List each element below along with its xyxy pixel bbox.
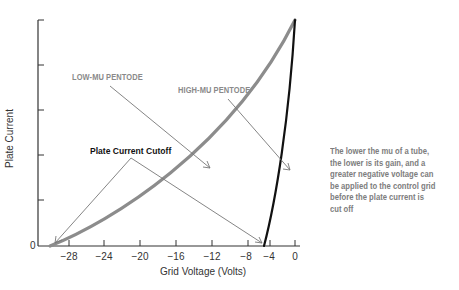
x-tick-label: −28 (61, 251, 78, 262)
low-mu-label: LOW-MU PENTODE (72, 72, 143, 82)
explanation-caption: The lower the mu of a tube, the lower is… (330, 146, 459, 215)
caption-line: greater negative voltage can (330, 169, 452, 181)
caption-line: the lower is its gain, and a (330, 158, 452, 170)
caption-line: before the plate current is (330, 192, 452, 204)
cutoff-label: Plate Current Cutoff (90, 145, 171, 156)
caption-line: The lower the mu of a tube, (330, 146, 452, 158)
x-tick-label: 0 (292, 251, 298, 262)
caption-line: be applied to the control grid (330, 181, 452, 193)
x-tick-label: −4 (263, 251, 274, 262)
chart-canvas (0, 0, 459, 290)
x-tick-label: −16 (168, 251, 185, 262)
x-tick-label: −20 (132, 251, 149, 262)
y-axis-label: Plate Current (4, 109, 15, 168)
x-axis-label: Grid Voltage (Volts) (160, 266, 246, 277)
high-mu-curve (264, 20, 295, 246)
y-zero-label: 0 (30, 240, 36, 251)
y-ticks (38, 20, 44, 200)
pointer-lines (55, 86, 290, 243)
high-mu-label: HIGH-MU PENTODE (178, 85, 250, 95)
x-tick-label: −8 (240, 251, 251, 262)
x-tick-label: −24 (96, 251, 113, 262)
x-tick-label: −12 (204, 251, 221, 262)
caption-line: cut off (330, 204, 452, 216)
